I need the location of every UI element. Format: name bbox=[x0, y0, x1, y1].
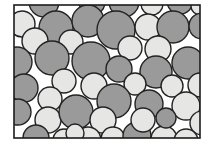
grain-light-3 bbox=[141, 0, 163, 15]
grain-light-41 bbox=[101, 127, 125, 144]
grain-dark-32 bbox=[5, 99, 31, 125]
grain-dark-46 bbox=[156, 108, 176, 128]
microstructure-canvas bbox=[0, 0, 213, 144]
grain-dark-12 bbox=[189, 13, 213, 39]
grain-dark-38 bbox=[23, 125, 49, 144]
grain-light-45 bbox=[131, 108, 155, 132]
grain-dark-17 bbox=[2, 47, 32, 77]
microstructure-figure bbox=[0, 0, 213, 144]
grain-light-47 bbox=[66, 124, 84, 142]
